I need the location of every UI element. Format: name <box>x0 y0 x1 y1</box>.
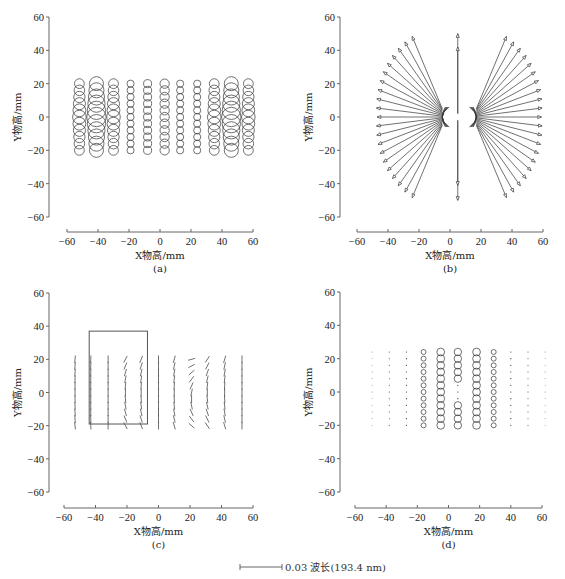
field-circle <box>177 147 184 154</box>
x-tick-label: −40 <box>378 512 394 523</box>
field-circle <box>194 87 201 94</box>
arrowhead-icon <box>504 36 507 40</box>
arrowhead-icon <box>538 107 542 110</box>
field-circle <box>127 120 134 127</box>
field-circle <box>74 85 85 96</box>
field-segment <box>191 389 193 396</box>
field-segment <box>173 422 175 429</box>
y-tick-label: −20 <box>319 420 335 431</box>
vector-line <box>476 118 542 126</box>
vector-line <box>476 119 541 135</box>
field-segment <box>189 423 195 428</box>
field-dot <box>406 425 407 426</box>
arrowhead-icon <box>456 182 459 186</box>
field-dot <box>527 398 528 399</box>
arrowhead-icon <box>537 142 541 145</box>
field-circle <box>194 100 201 107</box>
field-dot <box>389 352 390 353</box>
field-segment <box>188 358 195 360</box>
field-circle <box>222 115 240 133</box>
y-tick-label: −20 <box>319 145 335 156</box>
field-dot <box>510 398 511 399</box>
field-circle <box>491 356 496 361</box>
field-segment <box>189 376 193 382</box>
vector-line <box>377 99 442 115</box>
x-tick-label: 20 <box>185 512 196 523</box>
field-dot <box>406 385 407 386</box>
field-circle <box>127 80 134 87</box>
arrowhead-icon <box>538 98 542 101</box>
field-dot <box>545 385 546 386</box>
y-tick-label: 20 <box>34 354 45 365</box>
y-tick-label: −60 <box>28 487 44 498</box>
vector-line <box>387 122 442 171</box>
x-tick-label: 40 <box>507 236 518 247</box>
field-segment <box>141 375 142 383</box>
field-dot <box>527 405 528 406</box>
field-circle <box>491 350 496 355</box>
field-dot <box>510 405 511 406</box>
field-segment <box>224 415 226 422</box>
field-circle <box>109 145 119 155</box>
panel-caption: (a) <box>153 263 167 274</box>
x-tick-label: −60 <box>59 236 75 247</box>
field-circle <box>87 107 106 126</box>
field-dot <box>372 418 373 419</box>
vector-line <box>476 122 531 171</box>
vector-line <box>377 108 443 116</box>
field-circle <box>194 93 201 100</box>
field-dot <box>510 418 511 419</box>
field-segment <box>207 395 208 403</box>
field-circle <box>89 143 103 157</box>
panel-caption: (d) <box>441 539 455 550</box>
field-circle <box>209 91 220 102</box>
arrowhead-icon <box>511 42 514 46</box>
y-tick-label: −20 <box>28 421 44 432</box>
field-circle <box>491 383 496 388</box>
field-dot <box>389 365 390 366</box>
field-dot <box>527 352 528 353</box>
field-segment <box>174 375 175 383</box>
arrowhead-icon <box>538 133 542 136</box>
field-circle <box>421 363 426 368</box>
field-circle <box>421 383 426 388</box>
field-dot <box>372 385 373 386</box>
field-dot <box>545 378 546 379</box>
field-dot <box>545 392 546 393</box>
field-segment <box>140 362 142 369</box>
arrowhead-icon <box>383 159 387 162</box>
figure-canvas: 6040200−20−40−60−60−40−200204060X物高/mmY物… <box>0 0 565 579</box>
field-circle <box>421 403 426 408</box>
field-circle <box>177 107 184 114</box>
field-segment <box>189 370 195 375</box>
field-circle <box>74 131 85 142</box>
arrowhead-icon <box>456 197 459 201</box>
field-segment <box>140 415 142 422</box>
field-circle <box>109 79 119 89</box>
y-axis-title: Y物高/mm <box>302 367 314 417</box>
field-dot <box>545 412 546 413</box>
field-segment <box>124 356 127 363</box>
field-segment <box>141 395 142 403</box>
field-segment <box>189 416 193 422</box>
field-dot <box>545 372 546 373</box>
field-circle <box>127 127 134 134</box>
field-segment <box>125 402 126 409</box>
field-dot <box>406 371 407 372</box>
vector-line <box>476 120 540 145</box>
arrowhead-icon <box>531 159 535 162</box>
vector-line <box>412 36 442 108</box>
vector-line <box>378 120 442 145</box>
field-segment <box>174 369 175 377</box>
x-tick-label: 20 <box>474 512 485 523</box>
field-circle <box>87 115 105 133</box>
field-segment <box>206 402 208 409</box>
x-tick-label: 60 <box>248 236 259 247</box>
field-dot <box>372 358 373 359</box>
field-circle <box>127 140 134 147</box>
field-segment <box>206 376 208 383</box>
field-circle <box>108 131 119 142</box>
field-segment <box>124 362 127 369</box>
x-tick-label: −40 <box>87 512 103 523</box>
field-segment <box>173 356 175 363</box>
